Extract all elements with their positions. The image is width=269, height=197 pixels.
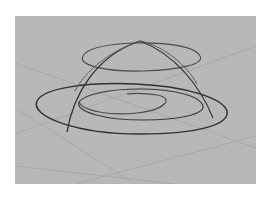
wireframe-drawing — [15, 16, 256, 184]
inner-spiral-end — [79, 93, 166, 114]
upper-dome-ellipse — [82, 43, 200, 71]
construction-plane-grid — [15, 46, 256, 184]
dome-arc-right — [140, 41, 213, 118]
3d-viewport[interactable] — [15, 16, 256, 184]
